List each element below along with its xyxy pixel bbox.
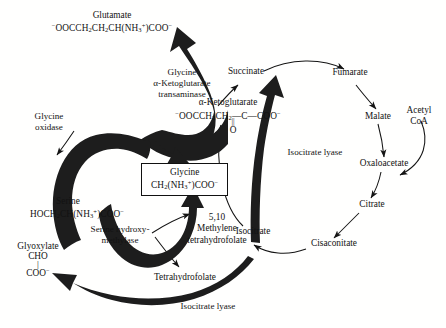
label-serine-hydroxymethylase: Serine hydroxy- methylase [76, 224, 164, 246]
label-methylene-tetrahydrofolate: 5,10 Methylene tetrahydrofolate [170, 212, 264, 246]
label-acetyl-coa: Acetyl CoA [398, 105, 440, 128]
label-glycine-formula: CH2(NH3+)COO− [151, 179, 218, 191]
label-glutamate: Glutamate [64, 10, 160, 20]
label-citrate: Citrate [347, 199, 397, 209]
methylene-thf-line1: 5,10 [170, 212, 264, 223]
label-fumarate: Fumarate [318, 67, 382, 77]
label-akg-carbonyl: || O [222, 119, 244, 135]
shmt-line1: Serine hydroxy- [76, 224, 164, 235]
label-glyoxylate: Glyoxylate [4, 241, 72, 251]
label-isocitrate-lyase-right: Isocitrate lyase [270, 147, 360, 157]
label-tetrahydrofolate: Tetrahydrofolate [137, 272, 233, 282]
methylene-thf-line2: Methylene [170, 223, 264, 234]
acetyl-coa-line2: CoA [398, 116, 440, 127]
label-serine: Serine [42, 196, 94, 206]
acetyl-coa-line1: Acetyl [398, 105, 440, 116]
label-oxaloacetate: Oxaloacetate [343, 158, 425, 168]
glycine-oxidase-line2: oxidase [14, 122, 84, 133]
label-serine-formula: HOCH2CH(NH3+)COO− [16, 208, 138, 219]
label-succinate: Succinate [213, 66, 279, 76]
glyoxylate-coo: COO− [14, 268, 62, 278]
glycine-oxidase-line1: Glycine [14, 111, 84, 122]
methylene-thf-line3: tetrahydrofolate [170, 235, 264, 246]
label-isocitrate-lyase-bottom: Isocitrate lyase [162, 301, 254, 311]
metabolic-pathway-diagram: Glutamate −OOCCH2CH2CH(NH3+)COO− Glycine… [0, 0, 446, 328]
glyoxylate-structure: CHO | COO− [14, 252, 62, 278]
label-glutamate-formula: −OOCCH2CH2CH(NH3+)COO− [28, 22, 196, 33]
shmt-line2: methylase [76, 235, 164, 246]
label-malate: Malate [352, 111, 404, 121]
akg-oxygen: O [222, 126, 244, 135]
label-glycine-oxidase: Glycine oxidase [14, 111, 84, 133]
label-cisaconitate: Cisaconitate [296, 238, 372, 248]
label-alpha-ketoglutarate: α-Ketoglutarate [180, 97, 276, 107]
glycine-box: Glycine CH2(NH3+)COO− [141, 163, 228, 196]
transaminase-line2: α-Ketoglutarate [120, 78, 244, 89]
label-glycine: Glycine [151, 167, 218, 179]
